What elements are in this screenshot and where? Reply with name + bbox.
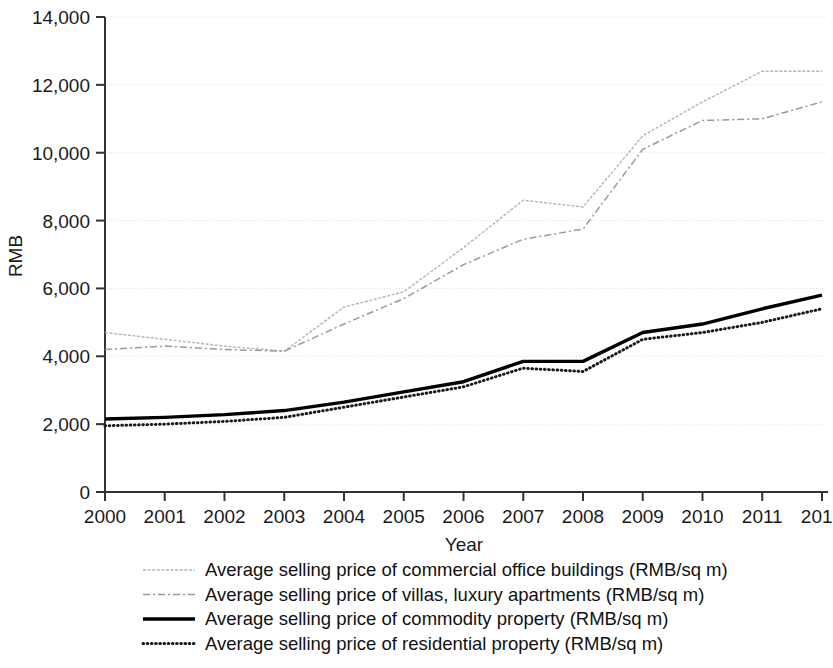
x-tick-label: 2005 — [383, 506, 425, 527]
y-tick-label: 10,000 — [32, 143, 90, 164]
x-tick-label: 2011 — [742, 506, 783, 527]
x-tick-label: 2004 — [323, 506, 366, 527]
y-tick-label: 0 — [79, 482, 90, 503]
x-tick-label: 2006 — [442, 506, 484, 527]
y-tick-label: 4,000 — [42, 346, 90, 367]
y-tick-label: 6,000 — [42, 278, 90, 299]
x-axis-title-text: Year — [445, 534, 484, 555]
y-axis-title-text: RMB — [5, 235, 26, 277]
y-tick-label: 8,000 — [42, 211, 90, 232]
series-line-commodity-property — [105, 295, 822, 419]
chart-canvas: 02,0004,0006,0008,00010,00012,00014,000 … — [0, 0, 833, 668]
x-axis: 2000200120022003200420052006200720082009… — [84, 492, 833, 527]
x-tick-label: 2008 — [562, 506, 604, 527]
series-line-villas-luxury-apartments — [105, 102, 822, 351]
legend: Average selling price of commercial offi… — [143, 559, 728, 654]
legend-label-residential-property: Average selling price of residential pro… — [205, 633, 663, 654]
y-tick-label: 12,000 — [32, 75, 90, 96]
y-tick-label: 14,000 — [32, 7, 90, 28]
x-tick-label: 2010 — [681, 506, 723, 527]
series-line-commercial-office-buildings — [105, 71, 822, 351]
series-line-residential-property — [105, 309, 822, 426]
legend-label-commercial-office-buildings: Average selling price of commercial offi… — [205, 559, 728, 580]
x-tick-label: 2007 — [502, 506, 544, 527]
series-lines — [105, 71, 822, 426]
legend-label-villas-luxury-apartments: Average selling price of villas, luxury … — [205, 584, 704, 605]
x-tick-label: 2002 — [203, 506, 245, 527]
gridlines — [105, 17, 828, 424]
x-tick-label: 2009 — [622, 506, 664, 527]
legend-label-commodity-property: Average selling price of commodity prope… — [205, 608, 668, 629]
y-axis-title: RMB — [5, 235, 26, 277]
x-tick-label: 2000 — [84, 506, 126, 527]
y-axis: 02,0004,0006,0008,00010,00012,00014,000 — [32, 7, 105, 503]
x-tick-label: 2001 — [144, 506, 186, 527]
x-axis-title: Year — [445, 534, 484, 555]
x-tick-label: 2012 — [801, 506, 833, 527]
y-tick-label: 2,000 — [42, 414, 90, 435]
line-chart: 02,0004,0006,0008,00010,00012,00014,000 … — [0, 0, 833, 668]
x-tick-label: 2003 — [263, 506, 305, 527]
